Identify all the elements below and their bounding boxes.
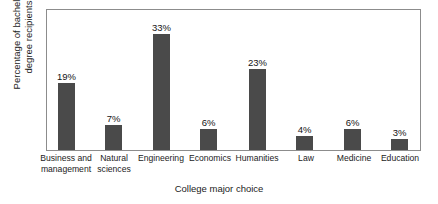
bar-value-label: 6% [346, 118, 360, 128]
bar-group-business-and-management[interactable]: 19% [57, 72, 76, 151]
x-tick-label-education: Education [367, 153, 433, 164]
bar-rect[interactable] [200, 129, 217, 150]
y-axis-title-line-1: Percentage of bachelor's [11, 0, 23, 89]
bar-group-economics[interactable]: 6% [200, 118, 217, 151]
x-tick-line-2: sciences [81, 164, 147, 175]
bar-rect[interactable] [296, 136, 313, 150]
bar-value-label: 33% [152, 23, 171, 33]
bar-group-medicine[interactable]: 6% [344, 118, 361, 151]
bar-group-law[interactable]: 4% [296, 125, 313, 151]
bar-group-humanities[interactable]: 23% [248, 58, 267, 151]
bar-value-label: 3% [393, 128, 407, 138]
bar-rect[interactable] [105, 125, 122, 150]
bar-rect[interactable] [249, 69, 266, 150]
bar-chart-figure: Percentage of bachelor's degree recipien… [0, 0, 438, 204]
bar-value-label: 19% [57, 72, 76, 82]
bar-value-label: 4% [298, 125, 312, 135]
bar-group-engineering[interactable]: 33% [152, 23, 171, 151]
x-axis-title: College major choice [0, 183, 438, 194]
bar-rect[interactable] [58, 83, 75, 150]
bar-rect[interactable] [344, 129, 361, 150]
bar-group-natural-sciences[interactable]: 7% [105, 114, 122, 151]
y-axis-title: Percentage of bachelor's degree recipien… [6, 0, 40, 102]
bar-value-label: 23% [248, 58, 267, 68]
bars-layer: 19% 7% 33% 6% 23% 4% 6% 3% [46, 9, 421, 151]
bar-group-education[interactable]: 3% [391, 128, 408, 151]
bar-value-label: 7% [107, 114, 121, 124]
x-axis-tick-labels: Business and management Natural sciences… [46, 153, 421, 179]
bar-value-label: 6% [202, 118, 216, 128]
x-tick-line-1: Education [367, 153, 433, 164]
y-axis-title-line-2: degree recipients [23, 1, 35, 74]
bar-rect[interactable] [391, 139, 408, 150]
bar-rect[interactable] [153, 34, 170, 150]
